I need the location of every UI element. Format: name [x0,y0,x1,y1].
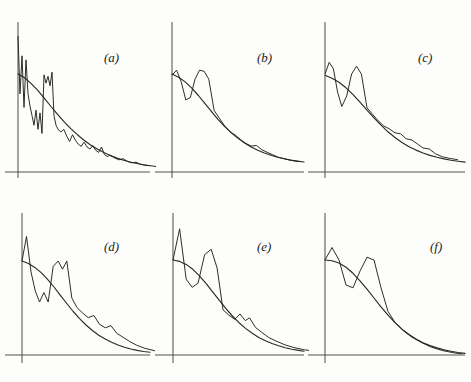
plot-svg-f [305,191,471,382]
plot-svg-e [152,191,309,382]
empirical-curve-c [325,62,458,159]
smooth-curve-a [18,74,150,166]
smooth-curve-f [325,260,465,353]
smooth-curve-e [173,260,304,351]
plot-svg-b [152,0,309,191]
smooth-curve-c [325,75,465,162]
panel-label-f: (f) [430,239,442,255]
panel-label-d: (d) [104,239,119,255]
plot-panel-c: (c) [305,0,471,191]
smooth-curve-d [22,261,150,352]
plot-svg-c [305,0,471,191]
figure-panel-grid: (a) (b) (c) (d) [0,0,471,382]
empirical-curve-e [173,229,309,351]
plot-panel-f: (f) [305,191,471,382]
plot-svg-a [0,0,157,191]
plot-panel-a: (a) [0,0,157,191]
plot-panel-d: (d) [0,191,157,382]
empirical-curve-b [172,70,299,162]
smooth-curve-b [172,74,304,162]
panel-label-c: (c) [418,50,432,66]
empirical-curve-d [22,236,155,350]
plot-panel-b: (b) [152,0,309,191]
panel-label-a: (a) [104,50,119,66]
panel-label-e: (e) [257,239,271,255]
plot-svg-d [0,191,157,382]
empirical-curve-f [325,248,462,354]
panel-label-b: (b) [257,50,272,66]
empirical-curve-a [18,36,156,167]
plot-panel-e: (e) [152,191,309,382]
